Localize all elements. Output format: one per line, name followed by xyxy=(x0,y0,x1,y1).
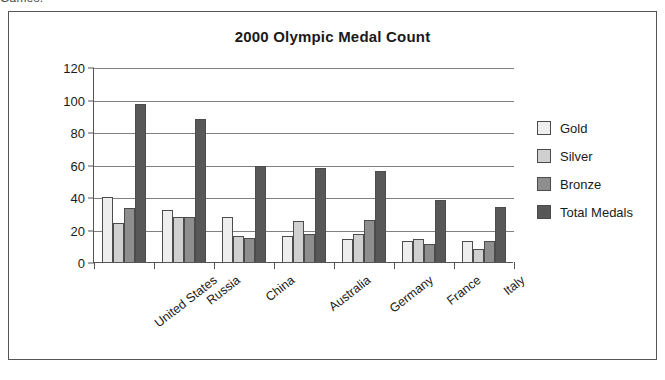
bar-bronze xyxy=(184,217,195,263)
bar-group xyxy=(214,68,274,262)
x-axis-label: Italy xyxy=(501,273,528,298)
bar-group xyxy=(334,68,394,262)
bar-silver xyxy=(413,239,424,262)
clipped-caption-text: Games. xyxy=(0,0,43,5)
bar-total xyxy=(315,168,326,262)
x-axis-label: France xyxy=(444,273,483,308)
bar-gold xyxy=(342,239,353,262)
legend-item: Total Medals xyxy=(537,198,633,226)
bar-silver xyxy=(293,221,304,262)
legend-swatch-bronze xyxy=(537,177,551,191)
bar-silver xyxy=(473,249,484,262)
legend-item: Silver xyxy=(537,142,633,170)
legend-swatch-silver xyxy=(537,149,551,163)
bar-bronze xyxy=(424,244,435,262)
legend-swatch-total xyxy=(537,205,551,219)
x-tick-mark xyxy=(274,262,275,269)
bar-silver xyxy=(113,223,124,262)
bar-total xyxy=(255,166,266,262)
bar-gold xyxy=(462,241,473,262)
legend-label: Silver xyxy=(560,149,593,164)
x-axis-label: China xyxy=(263,273,297,304)
bar-group xyxy=(454,68,514,262)
screenshot-root: Games. 2000 Olympic Medal Count 02040608… xyxy=(0,0,665,380)
legend-swatch-gold xyxy=(537,121,551,135)
bar-total xyxy=(375,171,386,262)
x-tick-mark xyxy=(214,262,215,269)
legend-item: Bronze xyxy=(537,170,633,198)
y-tick-label: 120 xyxy=(63,61,85,76)
bar-group xyxy=(94,68,154,262)
chart-legend: GoldSilverBronzeTotal Medals xyxy=(537,114,633,226)
legend-label: Bronze xyxy=(560,177,601,192)
bar-gold xyxy=(102,197,113,262)
bar-gold xyxy=(222,217,233,263)
bar-gold xyxy=(282,236,293,262)
bar-silver xyxy=(173,217,184,263)
bar-bronze xyxy=(484,241,495,262)
y-tick-label: 40 xyxy=(71,191,85,206)
x-tick-mark xyxy=(154,262,155,269)
x-tick-mark xyxy=(94,262,95,269)
x-tick-mark xyxy=(454,262,455,269)
bar-group xyxy=(394,68,454,262)
bar-total xyxy=(495,207,506,262)
bar-group xyxy=(274,68,334,262)
bar-total xyxy=(135,104,146,262)
x-tick-mark xyxy=(514,262,515,269)
bar-total xyxy=(195,119,206,262)
legend-label: Total Medals xyxy=(560,205,633,220)
bar-gold xyxy=(402,241,413,262)
legend-item: Gold xyxy=(537,114,633,142)
x-axis-label: Australia xyxy=(326,273,373,314)
y-tick-label: 20 xyxy=(71,223,85,238)
x-tick-mark xyxy=(394,262,395,269)
y-tick-label: 60 xyxy=(71,158,85,173)
y-tick-label: 100 xyxy=(63,93,85,108)
bar-silver xyxy=(353,234,364,262)
bar-group xyxy=(154,68,214,262)
y-tick-label: 0 xyxy=(78,256,85,271)
bar-bronze xyxy=(124,208,135,262)
legend-label: Gold xyxy=(560,121,587,136)
bar-total xyxy=(435,200,446,262)
bar-silver xyxy=(233,236,244,262)
x-axis-label: Germany xyxy=(387,273,436,316)
bar-gold xyxy=(162,210,173,262)
bar-bronze xyxy=(304,234,315,262)
chart-frame: 2000 Olympic Medal Count 020406080100120… xyxy=(8,11,657,360)
bar-bronze xyxy=(364,220,375,262)
plot-area: 020406080100120 xyxy=(93,68,513,263)
bar-bronze xyxy=(244,238,255,262)
x-tick-mark xyxy=(334,262,335,269)
y-tick-label: 80 xyxy=(71,126,85,141)
